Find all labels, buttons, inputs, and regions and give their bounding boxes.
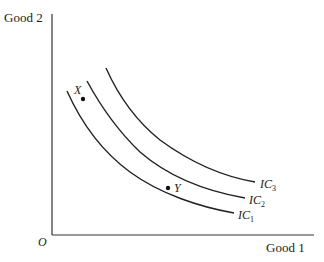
point-x-label: X bbox=[73, 83, 82, 97]
x-axis-label: Good 1 bbox=[266, 240, 305, 255]
ic3-label: IC3 bbox=[259, 177, 276, 193]
indifference-curve-2 bbox=[87, 81, 245, 198]
point-y-marker bbox=[166, 186, 170, 190]
indifference-curve-1 bbox=[67, 91, 234, 213]
ic2-label: IC2 bbox=[248, 193, 265, 209]
indifference-curve-3 bbox=[106, 68, 255, 182]
indifference-curve-diagram: Good 2 Good 1 O IC1 IC2 IC3 X Y bbox=[0, 0, 324, 262]
origin-label: O bbox=[38, 235, 47, 249]
y-axis-label: Good 2 bbox=[4, 10, 43, 25]
ic1-label: IC1 bbox=[237, 208, 254, 224]
point-y-label: Y bbox=[174, 181, 182, 195]
point-x-marker bbox=[81, 97, 85, 101]
